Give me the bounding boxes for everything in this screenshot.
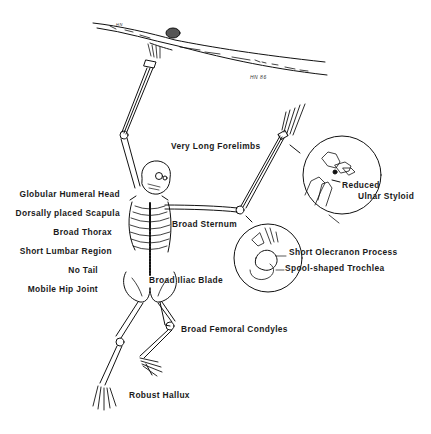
skull — [142, 161, 171, 194]
tree-branch — [93, 23, 327, 75]
left-arm — [120, 43, 172, 188]
artist-signature: HN 86 — [250, 74, 267, 80]
label-robust-hallux: Robust Hallux — [129, 390, 190, 400]
label-short-olecranon-process: Short Olecranon Process — [289, 247, 398, 257]
skeleton-diagram: HN 86 HN Globular Humeral Head Dorsally … — [0, 0, 431, 434]
label-no-tail: No Tail — [68, 265, 98, 275]
label-dorsally-placed-scapula: Dorsally placed Scapula — [16, 208, 120, 218]
label-spool-shaped-trochlea: Spool-shaped Trochlea — [285, 263, 385, 273]
wrist-inset-circle — [290, 136, 381, 214]
label-broad-femoral-condyles: Broad Femoral Condyles — [181, 324, 288, 334]
label-reduced: Reduced — [342, 180, 380, 190]
spine-pelvis — [124, 226, 177, 302]
label-mobile-hip-joint: Mobile Hip Joint — [28, 284, 98, 294]
right-arm — [165, 104, 305, 214]
label-broad-thorax: Broad Thorax — [53, 227, 112, 237]
label-globular-humeral-head: Globular Humeral Head — [20, 189, 120, 199]
branch-mark: HN — [116, 22, 123, 27]
leader-lines — [329, 215, 339, 223]
label-very-long-forelimbs: Very Long Forelimbs — [171, 141, 261, 151]
label-short-lumbar-region: Short Lumbar Region — [20, 246, 112, 256]
label-broad-sternum: Broad Sternum — [172, 219, 237, 229]
label-ulnar-styloid: Ulnar Styloid — [358, 191, 414, 201]
label-broad-iliac-blade: Broad Iliac Blade — [149, 275, 223, 285]
